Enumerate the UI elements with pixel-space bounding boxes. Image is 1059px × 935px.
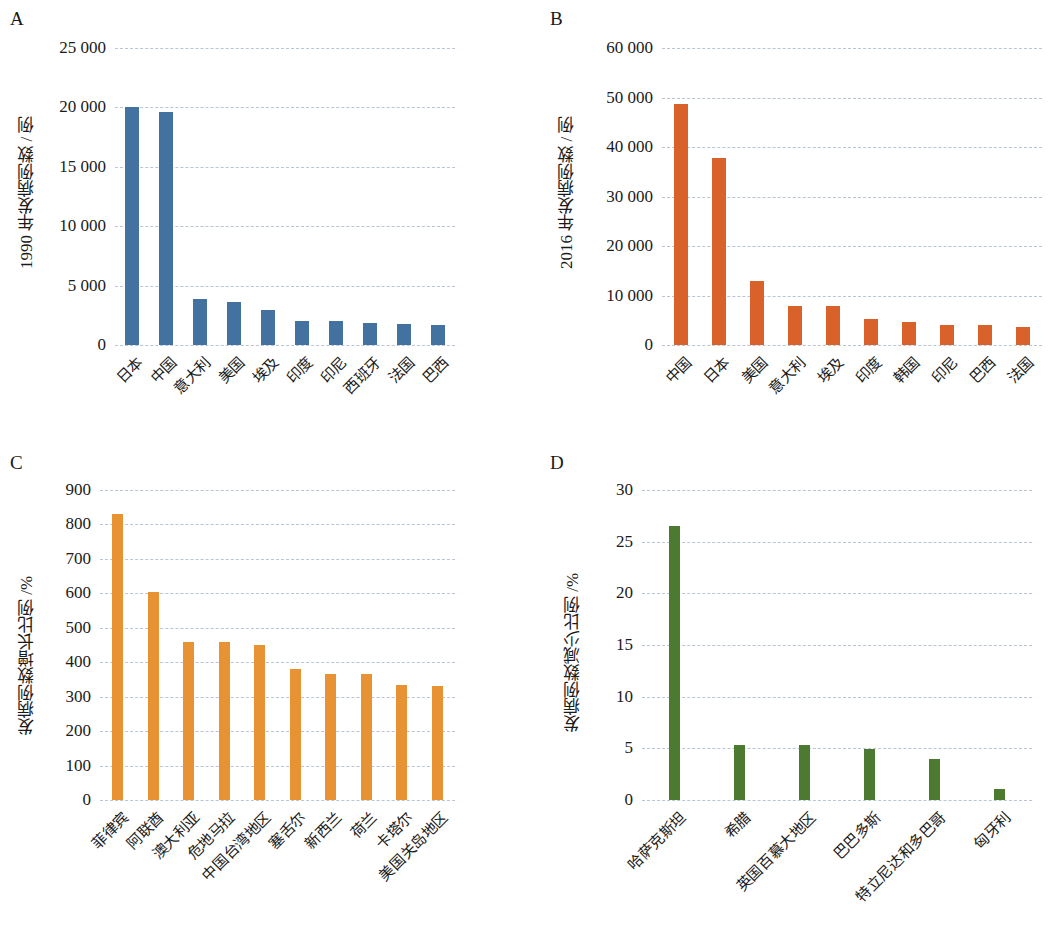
bar-slot bbox=[115, 48, 149, 345]
y-axis-tick-label: 30 bbox=[616, 480, 642, 500]
bar-slot bbox=[852, 48, 890, 345]
y-axis-tick-label: 25 000 bbox=[59, 38, 115, 58]
bar[interactable] bbox=[254, 645, 265, 800]
panel-c-y-axis-label: 发病例数增长比例 /% bbox=[14, 530, 39, 780]
bar-slot bbox=[772, 490, 837, 800]
bar[interactable] bbox=[290, 669, 301, 800]
y-axis-tick-label: 0 bbox=[645, 335, 663, 355]
bar[interactable] bbox=[864, 749, 875, 800]
panel-d-plot-area: 051015202530哈萨克斯坦希腊英国百慕大地区巴巴多斯特立尼达和多巴哥匈牙… bbox=[642, 490, 1032, 800]
x-axis-tick-label: 匈牙利 bbox=[968, 806, 1015, 853]
y-axis-tick-label: 200 bbox=[66, 721, 101, 741]
y-axis-tick-label: 20 bbox=[616, 583, 642, 603]
bar[interactable] bbox=[864, 319, 878, 345]
bar-slot bbox=[1004, 48, 1042, 345]
x-axis-tick-label: 法国 bbox=[383, 351, 419, 387]
bar-slot bbox=[251, 48, 285, 345]
bar[interactable] bbox=[112, 514, 123, 800]
bar[interactable] bbox=[329, 321, 343, 345]
bar-slot bbox=[242, 490, 278, 800]
bar-slot bbox=[100, 490, 136, 800]
x-axis-tick-label: 埃及 bbox=[247, 351, 283, 387]
x-axis-tick-label: 印尼 bbox=[926, 351, 962, 387]
bar-slot bbox=[966, 48, 1004, 345]
bar-slot bbox=[890, 48, 928, 345]
x-axis-tick-label: 新西兰 bbox=[299, 806, 346, 853]
bar[interactable] bbox=[978, 325, 992, 345]
x-axis-tick-label: 巴巴多斯 bbox=[827, 806, 884, 863]
panel-c-plot-area: 0100200300400500600700800900菲律宾阿联酋澳大利亚危地… bbox=[100, 490, 455, 800]
panel-c-letter: C bbox=[10, 452, 23, 474]
bar-series bbox=[662, 48, 1042, 345]
panel-c: C 发病例数增长比例 /% 01002003004005006007008009… bbox=[0, 440, 530, 935]
bar[interactable] bbox=[799, 745, 810, 800]
y-axis-tick-label: 50 000 bbox=[606, 88, 662, 108]
bar[interactable] bbox=[363, 323, 377, 345]
bar[interactable] bbox=[125, 107, 139, 345]
bar-slot bbox=[738, 48, 776, 345]
bar-slot bbox=[421, 48, 455, 345]
bar[interactable] bbox=[261, 310, 275, 345]
bar-slot bbox=[384, 490, 420, 800]
x-axis-tick-label: 中国 bbox=[660, 351, 696, 387]
bar[interactable] bbox=[712, 158, 726, 345]
bar[interactable] bbox=[219, 642, 230, 800]
bar-slot bbox=[207, 490, 243, 800]
bar[interactable] bbox=[148, 592, 159, 800]
bar-slot bbox=[313, 490, 349, 800]
bar[interactable] bbox=[902, 322, 916, 345]
bar[interactable] bbox=[1016, 327, 1030, 345]
gridline bbox=[100, 800, 455, 801]
bar-series bbox=[115, 48, 455, 345]
panel-b-y-axis-label: 2016 年发病例数 / 例 bbox=[554, 60, 579, 325]
y-axis-tick-label: 500 bbox=[66, 618, 101, 638]
bar[interactable] bbox=[734, 745, 745, 800]
bar[interactable] bbox=[929, 759, 940, 800]
y-axis-tick-label: 0 bbox=[625, 790, 643, 810]
x-axis-tick-label: 意大利 bbox=[763, 351, 810, 398]
x-axis-tick-label: 日本 bbox=[698, 351, 734, 387]
bar[interactable] bbox=[674, 104, 688, 345]
bar[interactable] bbox=[159, 112, 173, 345]
bar[interactable] bbox=[396, 685, 407, 800]
bar[interactable] bbox=[295, 321, 309, 345]
bar[interactable] bbox=[826, 306, 840, 345]
y-axis-tick-label: 5 bbox=[625, 738, 643, 758]
panel-d: D 发病例数减少比例 /% 051015202530哈萨克斯坦希腊英国百慕大地区… bbox=[530, 440, 1059, 935]
bar-slot bbox=[814, 48, 852, 345]
bar-slot bbox=[642, 490, 707, 800]
bar[interactable] bbox=[193, 299, 207, 345]
bar-slot bbox=[837, 490, 902, 800]
x-axis-tick-label: 菲律宾 bbox=[86, 806, 133, 853]
y-axis-tick-label: 100 bbox=[66, 756, 101, 776]
bar[interactable] bbox=[227, 302, 241, 345]
bar-slot bbox=[662, 48, 700, 345]
bar[interactable] bbox=[183, 642, 194, 800]
bar[interactable] bbox=[750, 281, 764, 345]
y-axis-tick-label: 800 bbox=[66, 514, 101, 534]
x-axis-tick-label: 西班牙 bbox=[338, 351, 385, 398]
bar-slot bbox=[902, 490, 967, 800]
figure-panel-grid: A 1990 年发病例数 / 例 05 00010 00015 00020 00… bbox=[0, 0, 1059, 935]
y-axis-tick-label: 10 000 bbox=[606, 286, 662, 306]
panel-d-letter: D bbox=[550, 452, 564, 474]
bar[interactable] bbox=[940, 325, 954, 345]
bar[interactable] bbox=[432, 686, 443, 800]
bar[interactable] bbox=[669, 526, 680, 800]
gridline bbox=[642, 800, 1032, 801]
bar[interactable] bbox=[788, 306, 802, 345]
x-axis-tick-label: 埃及 bbox=[812, 351, 848, 387]
y-axis-tick-label: 10 000 bbox=[59, 216, 115, 236]
x-axis-tick-label: 塞舌尔 bbox=[263, 806, 310, 853]
bar-slot bbox=[420, 490, 456, 800]
bar[interactable] bbox=[361, 674, 372, 800]
bar[interactable] bbox=[325, 674, 336, 800]
bar-slot bbox=[928, 48, 966, 345]
x-axis-tick-label: 印度 bbox=[281, 351, 317, 387]
y-axis-tick-label: 30 000 bbox=[606, 187, 662, 207]
x-axis-tick-label: 意大利 bbox=[168, 351, 215, 398]
bar[interactable] bbox=[431, 325, 445, 345]
bar[interactable] bbox=[397, 324, 411, 345]
y-axis-tick-label: 20 000 bbox=[606, 236, 662, 256]
bar[interactable] bbox=[994, 789, 1005, 800]
